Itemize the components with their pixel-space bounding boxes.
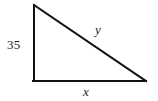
hypotenuse-line: [34, 5, 146, 81]
base-label: x: [83, 85, 89, 98]
hypotenuse-label: y: [95, 23, 101, 36]
right-triangle-graphic: [0, 0, 158, 101]
vertical-leg-label: 35: [7, 38, 20, 51]
triangle-figure: 35 y x: [0, 0, 158, 101]
